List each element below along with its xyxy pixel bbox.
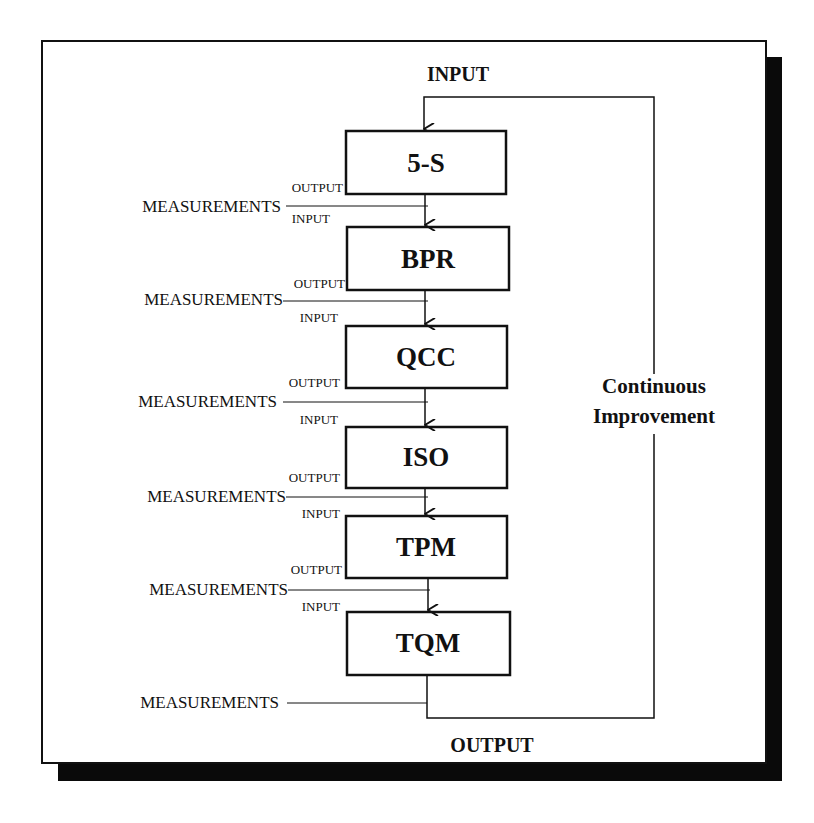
stage-tqm: TQM <box>347 612 510 675</box>
feedback-label-line2: Improvement <box>593 404 715 428</box>
stage-5s: 5-S <box>346 131 506 194</box>
stage-label: QCC <box>396 342 456 372</box>
measurements-label: MEASUREMENTS <box>138 392 277 411</box>
measurements-label: MEASUREMENTS <box>142 197 281 216</box>
output-label: OUTPUT <box>289 375 340 390</box>
output-label: OUTPUT <box>294 276 345 291</box>
stage-tpm: TPM <box>346 516 507 578</box>
top-input-label: INPUT <box>427 63 490 85</box>
measurements-label: MEASUREMENTS <box>147 487 286 506</box>
stage-label: TPM <box>396 532 456 562</box>
input-label: INPUT <box>300 412 338 427</box>
measurements-label: MEASUREMENTS <box>149 580 288 599</box>
input-label: INPUT <box>300 310 338 325</box>
stage-bpr: BPR <box>347 227 509 290</box>
stage-label: 5-S <box>407 148 445 178</box>
input-label: INPUT <box>302 506 340 521</box>
output-label: OUTPUT <box>292 180 343 195</box>
output-label: OUTPUT <box>289 470 340 485</box>
bottom-output-label: OUTPUT <box>450 734 534 756</box>
feedback-label-line1: Continuous <box>602 374 706 398</box>
input-label: INPUT <box>302 599 340 614</box>
stage-label: ISO <box>403 442 450 472</box>
output-label: OUTPUT <box>291 562 342 577</box>
stage-qcc: QCC <box>346 326 507 388</box>
measurements-label: MEASUREMENTS <box>140 693 279 712</box>
stage-label: BPR <box>401 244 456 274</box>
stage-label: TQM <box>396 628 461 658</box>
measurements-label: MEASUREMENTS <box>144 290 283 309</box>
continuous-improvement-diagram: INPUT Continuous Improvement 5-S BPR QCC… <box>0 0 814 823</box>
input-label: INPUT <box>292 211 330 226</box>
stage-iso: ISO <box>346 427 507 488</box>
